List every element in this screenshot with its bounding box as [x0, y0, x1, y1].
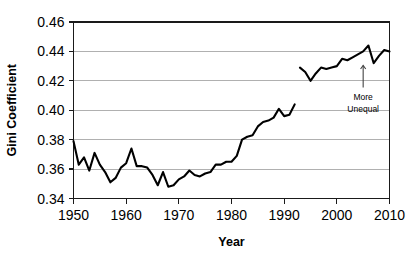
y-axis-tick-label: 0.46 — [37, 14, 64, 30]
y-axis-tick-label: 0.34 — [37, 191, 64, 207]
x-axis-tick-label: 1960 — [111, 207, 142, 223]
x-axis-tick-label: 1990 — [269, 207, 300, 223]
x-axis-tick-label: 2000 — [321, 207, 352, 223]
x-axis-tick-label: 1980 — [216, 207, 247, 223]
annotation-line-2: Unequal — [347, 104, 379, 114]
y-axis-title: Gini Coefficient — [5, 63, 19, 156]
x-axis-title: Year — [218, 235, 245, 249]
x-axis-tick-label: 2010 — [374, 207, 405, 223]
y-axis-tick-label: 0.44 — [37, 43, 64, 59]
chart-canvas: 0.340.360.380.400.420.440.46 19501960197… — [0, 0, 417, 267]
gini-coefficient-line-chart: 0.340.360.380.400.420.440.46 19501960197… — [0, 0, 417, 267]
y-axis-tick-label: 0.42 — [37, 73, 64, 89]
y-axis-tick-label: 0.40 — [37, 102, 64, 118]
annotation-line-1: More — [353, 92, 373, 102]
x-axis-tick-label: 1970 — [163, 207, 194, 223]
y-axis-tick-label: 0.36 — [37, 161, 64, 177]
x-axis-tick-label: 1950 — [58, 207, 89, 223]
y-axis-tick-label: 0.38 — [37, 132, 64, 148]
